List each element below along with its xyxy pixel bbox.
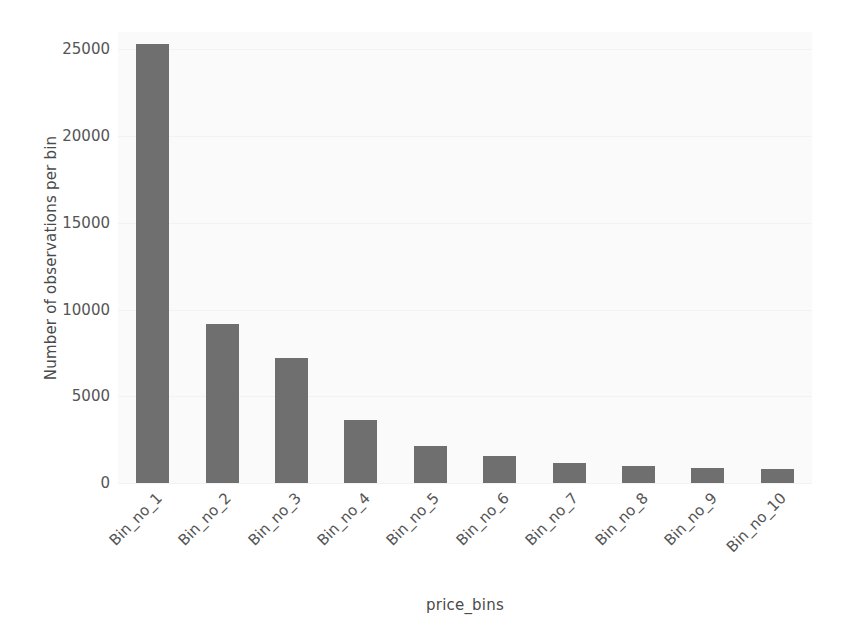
- bar[interactable]: [622, 466, 655, 483]
- y-axis-tick-label: 10000: [36, 301, 110, 319]
- plot-area: [118, 32, 812, 483]
- x-axis-tick-label: Bin_no_5: [289, 489, 443, 640]
- bar[interactable]: [691, 468, 724, 483]
- bar[interactable]: [414, 446, 447, 483]
- bar[interactable]: [206, 324, 239, 483]
- y-axis-tick-label: 15000: [36, 214, 110, 232]
- x-axis-tick-label: Bin_no_7: [428, 489, 582, 640]
- x-axis-tick-label: Bin_no_10: [636, 489, 790, 640]
- y-axis-tick-label: 0: [36, 474, 110, 492]
- bar[interactable]: [483, 456, 516, 483]
- bar-chart-figure: Number of observations per bin 050001000…: [0, 0, 842, 640]
- bar[interactable]: [136, 44, 169, 483]
- x-axis-tick-label: Bin_no_8: [497, 489, 651, 640]
- y-axis-tick-label: 5000: [36, 387, 110, 405]
- x-axis-tick-label: Bin_no_9: [566, 489, 720, 640]
- bar[interactable]: [275, 358, 308, 483]
- y-axis-tick-label: 25000: [36, 40, 110, 58]
- bar[interactable]: [344, 420, 377, 483]
- x-axis-title: price_bins: [118, 596, 812, 614]
- x-axis-tick-label: Bin_no_4: [219, 489, 373, 640]
- y-axis-tick-label: 20000: [36, 127, 110, 145]
- x-axis-tick-label: Bin_no_6: [358, 489, 512, 640]
- bar[interactable]: [761, 469, 794, 483]
- x-axis-tick-labels: Bin_no_1Bin_no_2Bin_no_3Bin_no_4Bin_no_5…: [118, 483, 812, 593]
- bar[interactable]: [553, 463, 586, 483]
- x-axis-tick-label: Bin_no_3: [150, 489, 304, 640]
- bar-series: [118, 32, 812, 483]
